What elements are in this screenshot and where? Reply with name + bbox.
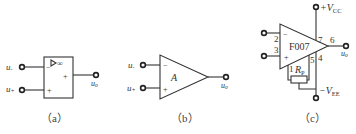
terminal-output — [94, 73, 99, 78]
infinity-gain: ∞ — [57, 59, 63, 68]
terminal-pin2-inverting — [262, 31, 267, 36]
potentiometer-rp — [291, 76, 307, 83]
pin-6: 6 — [330, 35, 335, 45]
output-sign-plus: + — [63, 72, 68, 81]
terminal-vcc — [314, 5, 319, 10]
label-u-out: uo — [341, 49, 348, 58]
terminal-inverting-input — [141, 63, 146, 68]
sign-minus: − — [46, 63, 51, 72]
sign-minus: − — [163, 61, 168, 70]
caption-a: （a） — [41, 112, 68, 124]
pin-4: 4 — [318, 53, 323, 63]
sign-plus: + — [163, 85, 168, 94]
panel-b: A u- − u+ + uo （b） — [127, 55, 228, 124]
label-u-plus: u+ — [127, 83, 136, 93]
label-rp: RP — [294, 64, 305, 76]
label-u-minus: u- — [128, 60, 135, 70]
pin-3: 3 — [274, 45, 279, 55]
label-minus-vee: −VEE — [319, 85, 340, 97]
terminal-pin3-noninverting — [262, 54, 267, 59]
terminal-noninverting-input — [141, 86, 146, 91]
label-u-out: uo — [91, 79, 98, 88]
terminal-output — [344, 44, 349, 49]
pin-7: 7 — [318, 35, 323, 45]
sign-plus: + — [47, 86, 52, 95]
amplifier-triangle-icon — [51, 60, 56, 66]
caption-c: （c） — [299, 112, 326, 124]
terminal-inverting-input — [20, 65, 25, 70]
panel-c: F007 2 − 3 + 6 uo +VCC 7 −VEE 4 1 5 RP （… — [262, 2, 349, 124]
panel-a: ∞ u- − u+ + + uo （a） — [6, 57, 98, 124]
label-plus-vcc: +VCC — [320, 2, 342, 14]
op-amp-symbols-figure: ∞ u- − u+ + + uo （a） A u- − u+ + uo （b） — [0, 0, 356, 134]
pin-2: 2 — [274, 34, 279, 44]
label-u-out: uo — [221, 81, 228, 90]
sign-minus: − — [283, 30, 288, 39]
gain-label-A: A — [170, 72, 178, 83]
terminal-output — [224, 75, 229, 80]
chip-name: F007 — [289, 41, 310, 52]
caption-b: （b） — [171, 112, 199, 124]
terminal-vee — [314, 96, 319, 101]
terminal-noninverting-input — [20, 88, 25, 93]
pin-1: 1 — [289, 64, 294, 74]
sign-plus: + — [284, 53, 289, 62]
pin-5: 5 — [310, 55, 315, 65]
label-u-minus: u- — [6, 62, 13, 72]
label-u-plus: u+ — [6, 84, 15, 94]
